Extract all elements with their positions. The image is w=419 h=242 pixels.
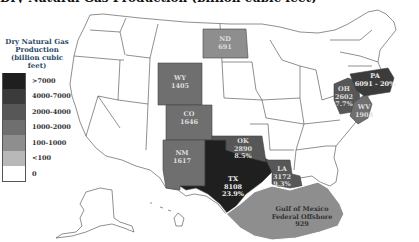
state-share: 9.3% [273, 181, 291, 189]
legend-swatch [2, 166, 26, 182]
label-nd: ND 691 [218, 36, 232, 51]
label-la: LA 3172 9.3% [273, 166, 291, 189]
legend-row: 4000-7000 [2, 89, 72, 105]
state-share: 7.7% [335, 101, 353, 109]
legend: Dry Natural Gas Production (billion cubi… [2, 38, 72, 182]
legend-swatch [2, 73, 26, 89]
legend-label: 0 [32, 170, 37, 178]
label-wv: WV 1903 [355, 104, 373, 119]
legend-row: >7000 [2, 73, 72, 89]
legend-swatch [2, 89, 26, 105]
legend-label: <100 [32, 154, 51, 162]
label-tx: TX 8108 23.9% [222, 176, 244, 199]
label-pa: PA 6091 - 20% [355, 73, 396, 88]
legend-label: >7000 [32, 77, 56, 85]
legend-label: 1000-2000 [32, 123, 71, 131]
state-value: 1903 [355, 112, 373, 120]
legend-swatch [2, 135, 26, 151]
legend-row: 100-1000 [2, 135, 72, 151]
state-value: 1617 [173, 158, 191, 166]
hawaii-outline [150, 203, 184, 226]
legend-swatch [2, 104, 26, 120]
label-nm: NM 1617 [173, 150, 191, 165]
legend-row: 1000-2000 [2, 120, 72, 136]
region-value: 929 [272, 221, 333, 229]
label-ok: OK 2890 8.5% [234, 138, 252, 161]
state-value: 691 [218, 44, 232, 52]
state-value: 1405 [171, 83, 189, 91]
legend-row: 0 [2, 166, 72, 182]
label-wy: WY 1405 [171, 75, 189, 90]
label-oh: OH 2602 7.7% [335, 86, 353, 109]
alaska-outline [56, 188, 134, 238]
legend-label: 4000-7000 [32, 92, 71, 100]
state-share: 8.5% [234, 153, 252, 161]
legend-label: 2000-4000 [32, 108, 71, 116]
legend-label: 100-1000 [32, 139, 66, 147]
map-title-clipped: Dry Natural Gas Production (billion cubi… [0, 0, 419, 3]
state-value: 6091 - 20% [355, 81, 396, 89]
state-value: 1646 [180, 119, 198, 127]
legend-swatch [2, 151, 26, 167]
legend-title-line: (billion cubic feet) [2, 54, 72, 70]
legend-title: Dry Natural Gas Production (billion cubi… [2, 38, 72, 70]
legend-swatch [2, 120, 26, 136]
state-nm [163, 140, 205, 190]
label-gulf: Gulf of Mexico Federal Offshore 929 [272, 206, 333, 229]
label-co: CO 1646 [180, 111, 198, 126]
legend-row: 2000-4000 [2, 104, 72, 120]
legend-row: <100 [2, 151, 72, 167]
state-share: 23.9% [222, 191, 244, 199]
